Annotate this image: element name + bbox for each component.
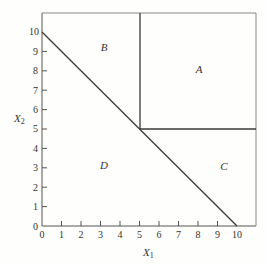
svg-text:9: 9: [33, 46, 38, 57]
svg-text:2: 2: [33, 182, 38, 193]
svg-text:6: 6: [33, 104, 38, 115]
svg-text:9: 9: [215, 229, 220, 240]
svg-text:7: 7: [176, 229, 181, 240]
svg-text:8: 8: [33, 65, 38, 76]
svg-text:4: 4: [118, 229, 123, 240]
y-ticks: [42, 51, 47, 206]
region-label-c: C: [220, 160, 228, 172]
svg-text:10: 10: [232, 229, 242, 240]
svg-text:1: 1: [33, 201, 38, 212]
svg-text:5: 5: [33, 123, 38, 134]
svg-text:2: 2: [79, 229, 84, 240]
y-tick-labels: 0 1 2 3 4 5 6 7 8 9 10: [29, 26, 39, 231]
x-ticks: [62, 221, 218, 226]
svg-text:8: 8: [196, 229, 201, 240]
svg-text:0: 0: [40, 229, 45, 240]
region-label-a: A: [195, 63, 203, 75]
svg-text:10: 10: [29, 26, 39, 37]
svg-text:3: 3: [98, 229, 103, 240]
svg-text:3: 3: [33, 162, 38, 173]
svg-text:6: 6: [157, 229, 162, 240]
svg-text:1: 1: [59, 229, 64, 240]
svg-text:7: 7: [33, 85, 38, 96]
svg-text:5: 5: [137, 229, 142, 240]
x-tick-labels: 0 1 2 3 4 5 6 7 8 9 10: [40, 229, 243, 240]
svg-text:4: 4: [33, 143, 38, 154]
x-axis-title: X1: [142, 246, 154, 260]
region-diagram: 0 1 2 3 4 5 6 7 8 9 10 0 1 2 3 4 5 6 7 8…: [0, 0, 267, 265]
y-axis-title: X2: [13, 112, 25, 126]
region-label-b: B: [101, 41, 108, 53]
region-label-d: D: [99, 159, 108, 171]
svg-text:0: 0: [33, 221, 38, 232]
